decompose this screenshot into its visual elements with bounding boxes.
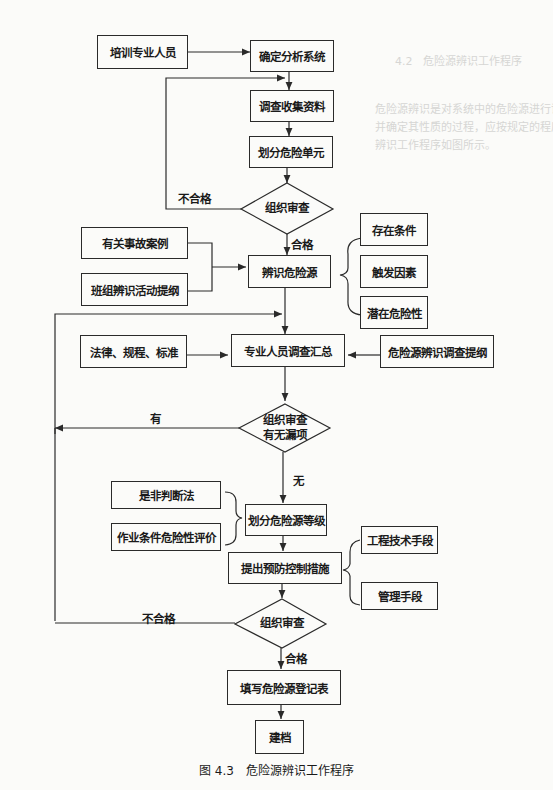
decision-review-1: 组织审查 bbox=[247, 201, 327, 216]
node-divide-units: 划分危险单元 bbox=[249, 136, 333, 168]
edge-label-pass-1: 合格 bbox=[291, 236, 313, 252]
node-define-system: 确定分析系统 bbox=[250, 40, 334, 72]
node-accident-cases: 有关事故案例 bbox=[81, 227, 188, 259]
edge-label-fail-1: 不合格 bbox=[178, 190, 211, 206]
node-potential-danger: 潜在危险性 bbox=[360, 296, 428, 329]
edge-label-no-omission: 无 bbox=[293, 472, 304, 488]
node-collect-data: 调查收集资料 bbox=[250, 90, 334, 122]
node-trigger-factors: 触发因素 bbox=[360, 255, 428, 288]
node-register: 填写危险源登记表 bbox=[227, 670, 341, 705]
decision-review-2: 组织审查 有无漏项 bbox=[245, 413, 325, 443]
edge-label-fail-3: 不合格 bbox=[142, 610, 175, 626]
node-classify: 划分危险源等级 bbox=[245, 504, 327, 536]
node-exist-conditions: 存在条件 bbox=[360, 213, 428, 246]
node-lec-eval: 作业条件危险性评价 bbox=[111, 523, 221, 551]
node-management: 管理手段 bbox=[361, 582, 438, 610]
figure-caption: 图 4.3 危险源辨识工作程序 bbox=[0, 761, 553, 778]
decision-review-3: 组织审查 bbox=[242, 616, 322, 631]
node-expert-summary: 专业人员调查汇总 bbox=[231, 334, 345, 367]
edge-label-has-omission: 有 bbox=[150, 410, 161, 426]
node-team-outline: 班组辨识活动提纲 bbox=[81, 273, 188, 306]
node-train: 培训专业人员 bbox=[97, 35, 188, 69]
edge-label-pass-3: 合格 bbox=[285, 650, 307, 666]
node-laws: 法律、规程、标准 bbox=[80, 335, 187, 368]
node-measures: 提出预防控制措施 bbox=[228, 552, 342, 584]
node-survey-outline: 危险源辨识调查提纲 bbox=[380, 335, 494, 368]
node-identify-hazards: 辨识危险源 bbox=[248, 255, 331, 288]
node-engineering: 工程技术手段 bbox=[361, 526, 438, 554]
node-archive: 建档 bbox=[255, 720, 304, 754]
node-yes-no-method: 是非判断法 bbox=[111, 481, 221, 509]
